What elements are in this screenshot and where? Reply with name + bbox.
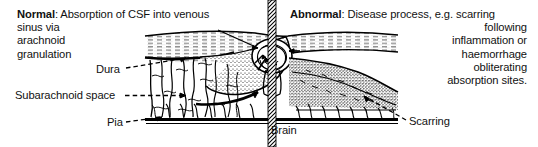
label-dura: Dura [96, 63, 120, 76]
abnormal-caption-line-2: inflammation or [290, 34, 527, 47]
label-brain: Brain [271, 124, 297, 137]
abnormal-caption-line-1: following [290, 21, 527, 34]
normal-caption-line-0: Normal: Absorption of CSF into venous [17, 8, 209, 21]
normal-lead-label: Normal [17, 8, 55, 20]
abnormal-caption-line-3: haemorrhage [290, 48, 527, 61]
csf-absorption-figure: Normal: Absorption of CSF into venous si… [0, 0, 538, 147]
label-pia: Pia [107, 116, 123, 129]
normal-caption-line-3: granulation [17, 48, 209, 61]
normal-caption-line-2: arachnoid [17, 34, 209, 47]
normal-caption: Normal: Absorption of CSF into venous si… [17, 8, 209, 61]
abnormal-caption: Abnormal: Disease process, e.g. scarring… [290, 8, 527, 87]
label-subarachnoid-space: Subarachnoid space [15, 89, 115, 102]
normal-caption-text-0: Absorption of CSF into venous [58, 8, 209, 20]
abnormal-caption-line-4: obliterating [290, 61, 527, 74]
label-scarring: Scarring [409, 115, 450, 128]
normal-caption-line-1: sinus via [17, 21, 209, 34]
abnormal-lead-label: Abnormal [290, 8, 341, 20]
abnormal-caption-line-5: absorption sites. [290, 74, 527, 87]
abnormal-caption-line-0: Abnormal: Disease process, e.g. scarring [290, 8, 527, 21]
abnormal-caption-text-0: Disease process, e.g. scarring [344, 8, 494, 20]
